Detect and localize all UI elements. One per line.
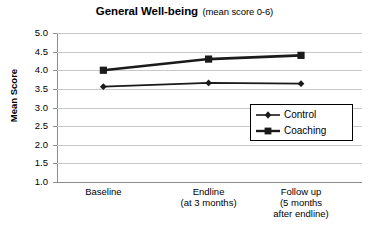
x-axis-label-line: (5 months xyxy=(246,197,356,208)
data-point-coaching xyxy=(205,55,212,62)
legend-label-control: Control xyxy=(281,109,316,121)
chart-title-main: General Well-being xyxy=(96,5,198,17)
y-axis-tick-label: 2.5 xyxy=(0,121,48,131)
data-point-control xyxy=(205,80,212,87)
legend-item-coaching[interactable]: Coaching xyxy=(251,123,352,139)
y-axis-tick-label: 1.0 xyxy=(0,177,48,187)
chart-title-subtitle: (mean score 0-6) xyxy=(202,6,273,17)
series-line-coaching xyxy=(103,55,301,70)
data-point-control xyxy=(298,80,305,87)
y-axis-tick-label: 2.0 xyxy=(0,140,48,150)
y-axis-tick-label: 4.5 xyxy=(0,47,48,57)
legend-item-control[interactable]: Control xyxy=(251,107,352,123)
data-point-coaching xyxy=(297,52,304,59)
y-axis-tick-label: 3.5 xyxy=(0,84,48,94)
legend-label-coaching: Coaching xyxy=(281,125,326,137)
chart-container: General Well-being (mean score 0-6) Mean… xyxy=(0,0,369,229)
y-axis-tick-label: 4.0 xyxy=(0,65,48,75)
data-point-control xyxy=(100,83,107,90)
gridline xyxy=(57,182,362,183)
y-axis-tick-label: 1.5 xyxy=(0,158,48,168)
y-axis-tick-label: 3.0 xyxy=(0,103,48,113)
x-axis-label-line: after endline) xyxy=(246,208,356,219)
x-axis-tick-label: Follow up(5 monthsafter endline) xyxy=(246,186,356,219)
diamond-marker-icon xyxy=(255,108,281,122)
data-point-coaching xyxy=(100,67,107,74)
x-axis-tick-label: Baseline xyxy=(48,186,158,197)
chart-legend[interactable]: Control Coaching xyxy=(250,104,353,141)
square-marker-icon xyxy=(255,124,281,138)
y-axis-tick-label: 5.0 xyxy=(0,28,48,38)
series-line-control xyxy=(103,83,301,87)
x-axis-label-line: Follow up xyxy=(246,186,356,197)
x-axis-label-line: Baseline xyxy=(48,186,158,197)
chart-title: General Well-being (mean score 0-6) xyxy=(0,3,369,18)
